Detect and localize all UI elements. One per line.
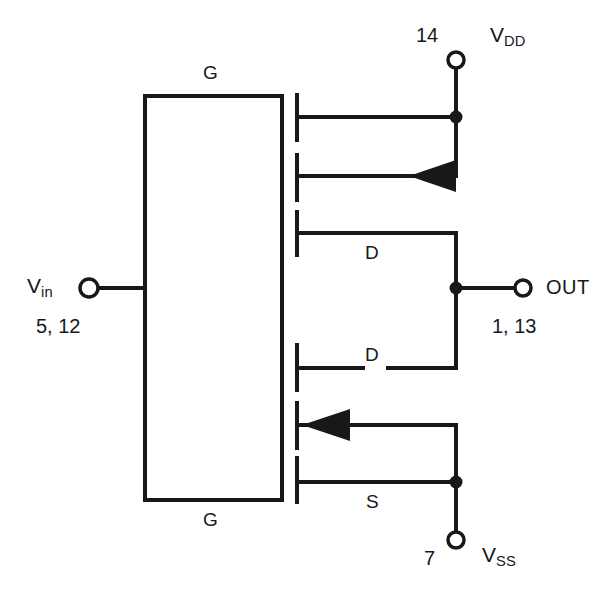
out-terminal-circle[interactable]	[515, 280, 531, 296]
out-junction-dot	[450, 282, 463, 295]
vin-label: Vin	[27, 275, 53, 300]
vdd-rail-subscript: DD	[504, 33, 526, 49]
pmos-bulk-arrowhead	[409, 160, 456, 192]
vss-rail-subscript: SS	[496, 553, 516, 569]
gate-body-rectangle	[145, 96, 282, 500]
vss-junction-dot	[450, 476, 463, 489]
circuit-diagram	[0, 0, 611, 601]
vin-name: V	[27, 274, 41, 297]
vss-rail-name: V	[482, 543, 496, 566]
gate-label-top: G	[203, 63, 218, 82]
vdd-terminal-circle[interactable]	[448, 52, 464, 68]
vdd-rail-label: VDD	[490, 24, 526, 49]
vin-terminal-circle[interactable]	[80, 279, 98, 297]
vss-rail-label: VSS	[482, 544, 516, 569]
vss-pin-number: 7	[424, 548, 435, 568]
vdd-pin-number: 14	[416, 25, 438, 45]
drain-label-top: D	[365, 243, 379, 262]
vdd-rail-name: V	[490, 23, 504, 46]
source-label-bottom: S	[366, 492, 379, 511]
out-label: OUT	[546, 277, 590, 297]
vss-terminal-circle[interactable]	[448, 532, 464, 548]
gate-label-bottom: G	[203, 510, 218, 529]
vin-pin-numbers: 5, 12	[36, 316, 80, 336]
vin-subscript: in	[41, 284, 53, 300]
out-pin-numbers: 1, 13	[492, 316, 536, 336]
nmos-bulk-arrowhead	[302, 409, 350, 441]
schematic-canvas: G G D D S 14 VDD 7 VSS Vin 5, 12 OUT 1, …	[0, 0, 611, 601]
vdd-junction-dot	[450, 111, 463, 124]
drain-label-bottom: D	[365, 345, 379, 364]
